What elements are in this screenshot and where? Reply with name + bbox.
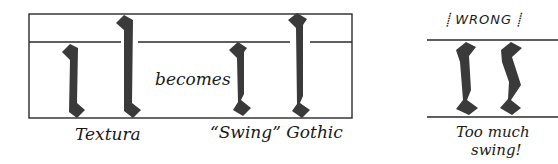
- textura-minim-stroke: [62, 44, 85, 118]
- textura-ascender-stroke: [116, 15, 141, 118]
- swing-ascender-stroke: [288, 13, 310, 118]
- label-textura: Textura: [75, 124, 141, 144]
- wrong-strokes: [456, 42, 522, 115]
- wrong-minim-stroke-2: [500, 42, 522, 115]
- swing-gothic-strokes: [229, 13, 310, 118]
- textura-strokes: [62, 15, 141, 118]
- label-wrong: ⸽ WRONG ⸽: [446, 10, 521, 28]
- label-swing-gothic: “Swing” Gothic: [210, 122, 343, 142]
- swing-minim-stroke: [229, 42, 251, 116]
- label-swing-exclaim: swing!: [471, 141, 522, 159]
- label-too-much: Too much: [456, 123, 530, 141]
- wrong-minim-stroke-1: [456, 42, 478, 115]
- label-becomes: becomes: [155, 69, 231, 89]
- guide-lines-right: [427, 40, 558, 117]
